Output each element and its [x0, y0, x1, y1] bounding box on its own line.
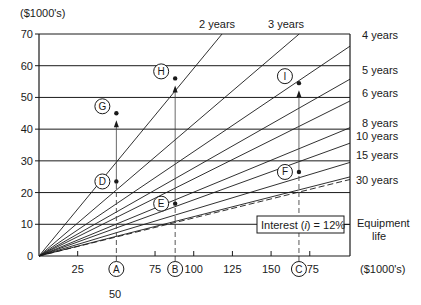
equipment-life-label-2: life — [372, 230, 386, 242]
x-tick-label-25: 25 — [72, 263, 84, 275]
line-label-6-years: 6 years — [362, 87, 399, 99]
point-G — [114, 111, 118, 115]
line-label-2-years: 2 years — [199, 18, 236, 30]
x-axis-unit: ($1000's) — [360, 263, 406, 275]
arrow-head-I — [296, 90, 301, 97]
grid-lines — [35, 34, 350, 224]
x-tick-label-125: 125 — [223, 263, 241, 275]
point-F — [297, 170, 301, 174]
series-line-15-years — [39, 162, 350, 256]
point-label-H: H — [158, 66, 165, 77]
y-tick-50: 50 — [21, 91, 33, 103]
equipment-life-label: Equipment — [357, 217, 410, 229]
line-label-5-years: 5 years — [362, 64, 399, 76]
y-tick-20: 20 — [21, 187, 33, 199]
point-label-D: D — [99, 176, 106, 187]
point-I — [297, 81, 301, 85]
y-tick-60: 60 — [21, 60, 33, 72]
x-tick-label-150: 150 — [262, 263, 280, 275]
line-label-4-years: 4 years — [362, 29, 399, 41]
marker-label-A: A — [113, 264, 120, 275]
line-label-30-years: 30 years — [356, 174, 399, 186]
chart: 0102030405060702575100125150175ABC DEFGH… — [0, 0, 421, 305]
y-tick-30: 30 — [21, 155, 33, 167]
interest-label: Interest (i) = 12% — [261, 219, 345, 231]
point-D — [114, 179, 118, 183]
marker-label-B: B — [172, 264, 179, 275]
y-tick-10: 10 — [21, 218, 33, 230]
point-label-G: G — [98, 101, 106, 112]
y-tick-40: 40 — [21, 123, 33, 135]
point-H — [173, 76, 177, 80]
point-label-I: I — [284, 71, 287, 82]
line-label-8-years: 8 years — [362, 117, 399, 129]
line-label-10-years: 10 years — [356, 130, 399, 142]
point-E — [173, 201, 177, 205]
x-tick-label-75: 75 — [149, 263, 161, 275]
line-label-3-years: 3 years — [268, 18, 305, 30]
line-label-15-years: 15 years — [356, 149, 399, 161]
point-label-F: F — [282, 166, 288, 177]
y-tick-0: 0 — [27, 250, 33, 262]
y-axis-unit: ($1000's) — [20, 7, 66, 19]
y-tick-70: 70 — [21, 28, 33, 40]
series-line-8-years — [39, 128, 350, 256]
marker-label-C: C — [295, 264, 302, 275]
x-tick-label-100: 100 — [185, 263, 203, 275]
arrow-head-G — [114, 120, 119, 127]
point-label-E: E — [158, 198, 165, 209]
x-value-50-label: 50 — [109, 288, 121, 300]
data-points: DEFGHI — [95, 64, 301, 211]
